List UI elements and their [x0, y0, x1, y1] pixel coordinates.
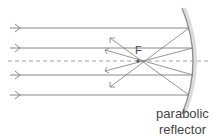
focus-label: F: [135, 44, 142, 56]
reflected-rays: [105, 28, 193, 95]
incoming-rays: [10, 24, 193, 99]
reflector-label-line2: reflector: [150, 122, 215, 138]
reflector-label-line1: parabolic: [150, 106, 215, 122]
focus-point: [136, 59, 139, 62]
reflector-label: parabolic reflector: [150, 106, 215, 138]
